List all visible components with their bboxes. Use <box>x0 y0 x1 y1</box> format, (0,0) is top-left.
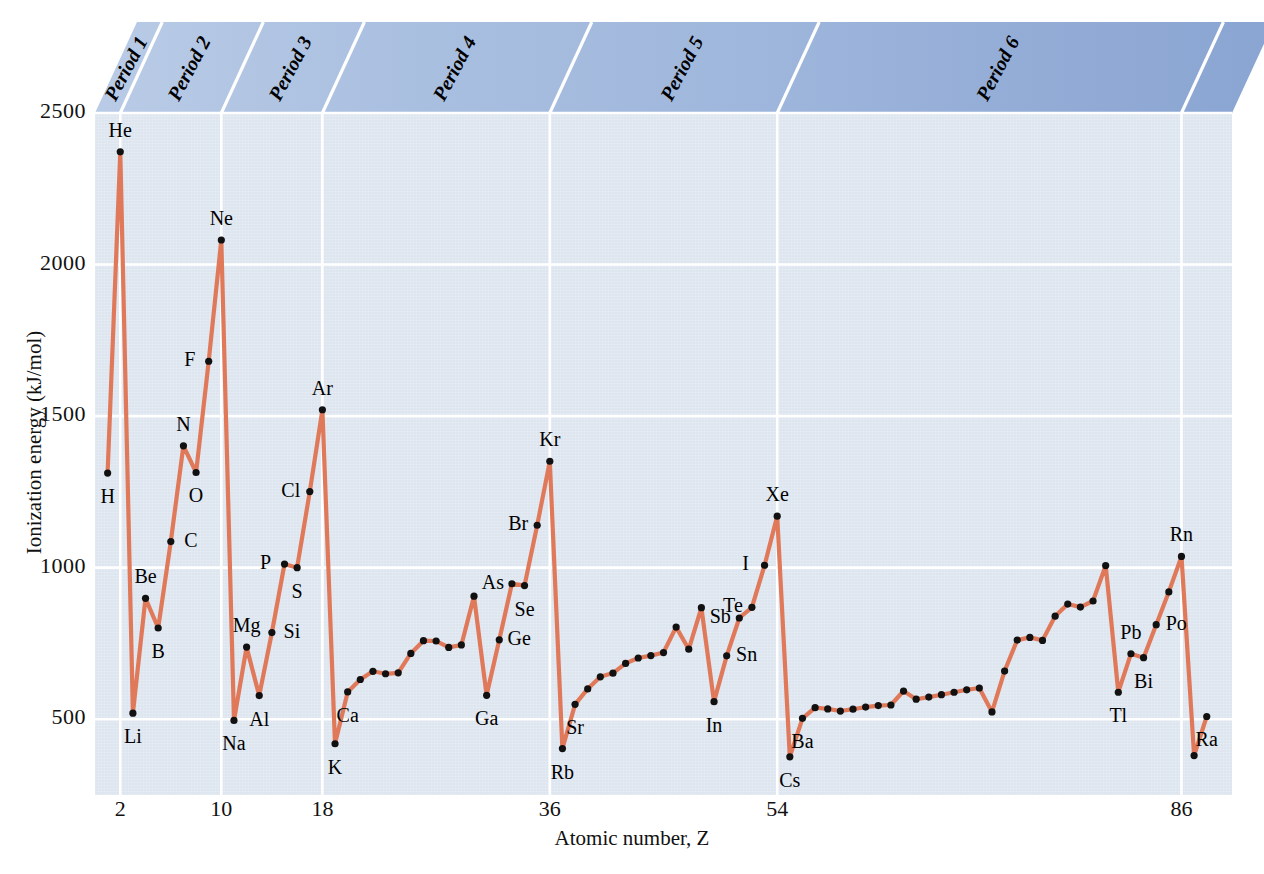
ionization-energy-series <box>108 152 1207 757</box>
data-point <box>1026 634 1033 641</box>
x-tick-86: 86 <box>1170 796 1192 822</box>
y-tick-1000: 1000 <box>40 553 86 579</box>
element-label-P: P <box>260 551 271 574</box>
element-label-Bi: Bi <box>1134 669 1153 692</box>
data-point <box>1102 562 1109 569</box>
element-label-H: H <box>100 485 114 508</box>
data-point <box>155 624 162 631</box>
data-point <box>521 582 528 589</box>
data-point <box>470 593 477 600</box>
element-label-As: As <box>482 570 504 593</box>
data-point <box>622 660 629 667</box>
element-label-Be: Be <box>134 565 156 588</box>
data-point <box>331 740 338 747</box>
data-point <box>875 702 882 709</box>
data-point <box>1140 654 1147 661</box>
data-point <box>710 698 717 705</box>
element-label-Na: Na <box>222 732 245 755</box>
data-point <box>1077 603 1084 610</box>
element-label-F: F <box>184 348 195 371</box>
data-point <box>496 636 503 643</box>
data-point <box>546 458 553 465</box>
data-point <box>445 644 452 651</box>
x-tick-2: 2 <box>115 796 126 822</box>
element-label-Ra: Ra <box>1196 728 1218 751</box>
data-point <box>597 673 604 680</box>
data-point <box>584 685 591 692</box>
data-point-markers <box>104 148 1210 760</box>
data-point <box>344 688 351 695</box>
data-point <box>647 652 654 659</box>
element-label-Rb: Rb <box>551 760 574 783</box>
data-point <box>761 562 768 569</box>
element-label-Te: Te <box>723 594 743 617</box>
data-point <box>1165 588 1172 595</box>
element-label-S: S <box>292 579 303 602</box>
data-point <box>1191 752 1198 759</box>
data-point <box>1052 613 1059 620</box>
data-point <box>483 692 490 699</box>
data-point <box>294 564 301 571</box>
element-label-Ba: Ba <box>791 730 813 753</box>
data-point <box>268 629 275 636</box>
data-point <box>129 710 136 717</box>
data-point <box>849 706 856 713</box>
y-tick-2000: 2000 <box>40 250 86 276</box>
data-point <box>230 717 237 724</box>
data-point <box>786 753 793 760</box>
data-point <box>420 637 427 644</box>
data-point <box>1203 713 1210 720</box>
data-point <box>673 623 680 630</box>
data-point <box>913 696 920 703</box>
element-label-Mg: Mg <box>233 614 261 637</box>
data-point <box>1014 637 1021 644</box>
element-label-Si: Si <box>284 619 301 642</box>
data-point <box>862 703 869 710</box>
element-label-Po: Po <box>1166 611 1187 634</box>
element-label-Ge: Ge <box>508 626 531 649</box>
data-point <box>660 649 667 656</box>
data-point <box>812 704 819 711</box>
x-tick-10: 10 <box>210 796 232 822</box>
data-point <box>104 469 111 476</box>
y-tick-1500: 1500 <box>40 401 86 427</box>
element-label-K: K <box>328 755 342 778</box>
element-label-Al: Al <box>249 707 269 730</box>
element-label-Br: Br <box>508 512 528 535</box>
x-tick-36: 36 <box>539 796 561 822</box>
data-point <box>433 637 440 644</box>
data-point <box>256 692 263 699</box>
data-point <box>192 469 199 476</box>
x-axis-title: Atomic number, Z <box>0 826 1264 851</box>
data-point <box>963 686 970 693</box>
element-label-Xe: Xe <box>766 483 789 506</box>
data-point <box>988 708 995 715</box>
data-point <box>723 652 730 659</box>
element-label-Cl: Cl <box>281 478 300 501</box>
data-point <box>824 705 831 712</box>
data-point <box>925 693 932 700</box>
data-point <box>395 669 402 676</box>
data-point <box>950 689 957 696</box>
data-point <box>1178 553 1185 560</box>
element-label-Li: Li <box>124 725 142 748</box>
element-label-B: B <box>151 639 164 662</box>
element-label-Se: Se <box>515 597 535 620</box>
element-label-Cs: Cs <box>779 768 800 791</box>
element-label-He: He <box>109 118 132 141</box>
element-label-In: In <box>706 713 723 736</box>
data-point <box>306 488 313 495</box>
data-point <box>635 654 642 661</box>
data-point <box>369 668 376 675</box>
data-point <box>1064 600 1071 607</box>
period-band: Period 1Period 2Period 3Period 4Period 5… <box>95 22 1264 113</box>
data-point <box>1089 597 1096 604</box>
data-point <box>508 580 515 587</box>
data-point <box>180 442 187 449</box>
data-point <box>117 148 124 155</box>
gridlines <box>95 113 1232 795</box>
data-point <box>243 643 250 650</box>
data-point <box>1153 621 1160 628</box>
data-point <box>887 701 894 708</box>
data-point <box>534 522 541 529</box>
